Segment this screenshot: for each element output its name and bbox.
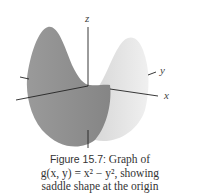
x-axis-label: x xyxy=(164,89,169,101)
figure-caption: Figure 15.7: Graph of g(x, y) = x² − y²,… xyxy=(0,153,200,194)
y-axis-line-right xyxy=(148,72,156,75)
figure-number: Figure 15.7: xyxy=(50,153,106,165)
surface-left-lobe xyxy=(27,27,111,147)
caption-line-3: saddle shape at the origin xyxy=(0,180,200,194)
caption-line-2: g(x, y) = x² − y², showing xyxy=(0,167,200,181)
caption-line-1: Figure 15.7: Graph of xyxy=(0,153,200,167)
saddle-surface-figure: z y x xyxy=(0,0,200,150)
z-axis-label: z xyxy=(85,12,89,24)
saddle-surface-plot xyxy=(0,0,200,150)
y-axis-label: y xyxy=(160,64,165,76)
